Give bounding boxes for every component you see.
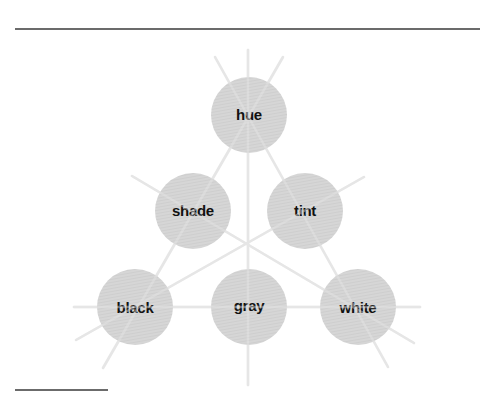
color-triangle-diagram: hue shade tint black gray white (0, 0, 492, 394)
gray-label: gray (234, 297, 265, 314)
